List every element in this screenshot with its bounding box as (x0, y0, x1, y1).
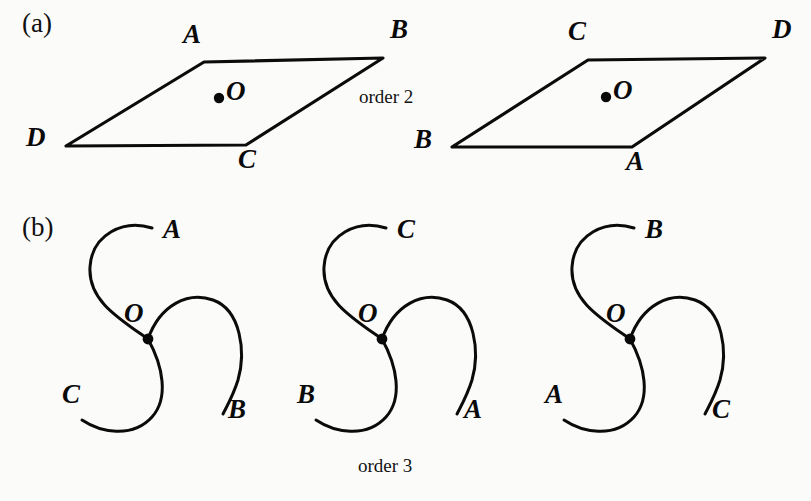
parallelogram-left-vertex-a: A (183, 19, 202, 50)
triskelion-3-label-lower-right: C (712, 394, 731, 425)
parallelogram-right-vertex-a: A (626, 146, 645, 177)
part-a-vector-layer (0, 0, 811, 501)
triskelion-3-label-upper: B (645, 214, 664, 245)
triskelion-2-label-lower-left: B (297, 379, 316, 410)
triskelion-3-center-dot (625, 334, 636, 345)
parallelogram-right-center-label: O (613, 75, 633, 106)
parallelogram-left-vertex-d: D (26, 122, 46, 153)
order-3-caption: order 3 (358, 455, 412, 477)
triskelion-2-label-lower-right: A (464, 394, 483, 425)
triskelion-3-center-label: O (606, 298, 626, 329)
figure-canvas: (a) A B C D O order 2 C D A B O (b) A B … (0, 0, 811, 501)
parallelogram-right-vertex-c: C (568, 16, 587, 47)
order-2-caption: order 2 (359, 86, 413, 108)
triskelion-1-label-lower-left: C (62, 379, 81, 410)
triskelion-2-arm-lower-left (316, 339, 396, 431)
triskelion-2-label-upper: C (397, 214, 416, 245)
parallelogram-right-vertex-d: D (772, 14, 792, 45)
triskelion-1-label-lower-right: B (228, 394, 247, 425)
parallelogram-right-center-dot (601, 92, 611, 102)
triskelion-2-arm-lower-right (382, 297, 475, 414)
triskelion-1-label-upper: A (163, 214, 182, 245)
triskelion-3-arcs (564, 225, 723, 431)
triskelion-1-center-dot (143, 334, 154, 345)
triskelion-2-center-label: O (358, 298, 378, 329)
triskelion-2-center-dot (377, 334, 388, 345)
triskelion-2-arcs (316, 225, 475, 431)
triskelion-1-center-label: O (124, 298, 144, 329)
parallelogram-left-vertex-c: C (238, 144, 257, 175)
parallelogram-left-center-label: O (226, 76, 246, 107)
part-b-label: (b) (22, 212, 53, 243)
parallelogram-right-outline (452, 58, 765, 147)
triskelion-3-label-lower-left: A (545, 379, 564, 410)
parallelogram-left-vertex-b: B (390, 14, 409, 45)
triskelion-1-arm-lower-left (82, 339, 162, 431)
parallelogram-left-outline (66, 58, 383, 146)
part-a-label: (a) (22, 8, 52, 39)
parallelogram-right-vertex-b: B (414, 124, 433, 155)
triskelion-1-arcs (82, 225, 241, 431)
triskelion-3-arm-lower-left (564, 339, 644, 431)
triskelion-3-arm-lower-right (630, 297, 723, 414)
parallelogram-left-center-dot (214, 93, 224, 103)
